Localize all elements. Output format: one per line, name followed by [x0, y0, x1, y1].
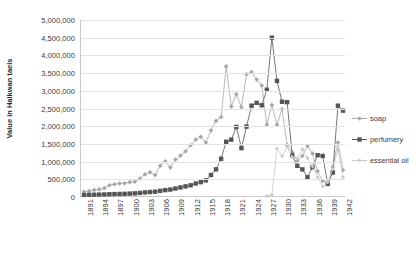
- x-axis-tick: 1894: [101, 199, 110, 216]
- y-axis-tick: 2,500,000: [41, 104, 75, 113]
- data-point: [127, 180, 132, 185]
- data-point: [173, 186, 177, 190]
- data-point: [153, 173, 158, 178]
- x-axis-tick: 1918: [223, 199, 232, 216]
- data-point: [320, 154, 324, 158]
- data-point: [199, 180, 203, 184]
- x-axis-tick: 1897: [116, 199, 125, 216]
- data-point: [229, 137, 233, 141]
- data-point: [158, 189, 162, 193]
- data-point: [92, 192, 96, 196]
- legend: soapperfumeryessential oil: [352, 108, 418, 171]
- x-axis-tick-labels: 1891189418971900190319061909191219151918…: [80, 199, 345, 257]
- data-point: [194, 181, 198, 185]
- data-point: [209, 128, 214, 133]
- y-axis-tick: 4,000,000: [41, 51, 75, 60]
- y-axis-title-text: Value in Haikwan taels: [5, 58, 14, 138]
- data-point: [153, 189, 157, 193]
- x-axis-tick: 1900: [132, 199, 141, 216]
- data-point: [128, 191, 132, 195]
- gridline: [81, 91, 345, 92]
- series-line: [267, 147, 343, 196]
- data-point: [148, 190, 152, 194]
- data-point: [148, 170, 153, 175]
- x-axis-tick: 1915: [208, 199, 217, 216]
- legend-item-perfumery[interactable]: perfumery: [352, 129, 418, 150]
- gridline: [81, 20, 345, 21]
- x-axis-tick: 1933: [299, 199, 308, 216]
- data-point: [138, 191, 142, 195]
- x-axis-tick: 1939: [330, 199, 339, 216]
- data-point: [270, 193, 274, 197]
- data-point: [265, 194, 269, 198]
- legend-marker-icon: [352, 114, 367, 123]
- data-point: [295, 164, 299, 168]
- data-point: [133, 191, 137, 195]
- data-point: [214, 167, 218, 171]
- data-point: [102, 192, 106, 196]
- gridline: [81, 73, 345, 74]
- chart-container: Value in Haikwan taels 0500,0001,000,000…: [0, 0, 420, 257]
- data-point: [188, 183, 192, 187]
- plot-area: [80, 20, 345, 197]
- x-axis-tick: 1921: [238, 199, 247, 216]
- y-axis-tick: 4,500,000: [41, 33, 75, 42]
- data-point: [122, 192, 126, 196]
- data-point: [310, 151, 315, 156]
- y-axis-tick: 1,000,000: [41, 157, 75, 166]
- data-point: [87, 189, 92, 194]
- data-point: [92, 188, 97, 193]
- data-point: [275, 79, 279, 83]
- data-point: [305, 156, 309, 160]
- gridline: [81, 109, 345, 110]
- x-axis-tick: 1927: [269, 199, 278, 216]
- data-point: [122, 181, 127, 186]
- legend-item-soap[interactable]: soap: [352, 108, 418, 129]
- legend-label: essential oil: [370, 156, 409, 165]
- data-point: [254, 101, 258, 105]
- legend-label: perfumery: [370, 135, 403, 144]
- data-point: [315, 153, 319, 157]
- data-point: [168, 187, 172, 191]
- data-point: [239, 146, 243, 150]
- y-axis-tick: 2,000,000: [41, 122, 75, 131]
- data-point: [224, 64, 229, 69]
- data-point: [249, 103, 253, 107]
- legend-label: soap: [370, 114, 386, 123]
- gridline: [81, 144, 345, 145]
- data-point: [97, 187, 102, 192]
- data-point: [209, 173, 213, 177]
- data-point: [112, 192, 116, 196]
- x-axis-tick: 1936: [315, 199, 324, 216]
- data-point: [87, 193, 91, 197]
- x-axis-tick: 1930: [284, 199, 293, 216]
- data-point: [143, 190, 147, 194]
- x-axis-tick: 1906: [162, 199, 171, 216]
- data-point: [234, 92, 239, 97]
- y-axis-tick: 3,000,000: [41, 86, 75, 95]
- data-point: [102, 186, 107, 191]
- y-axis-tick: 5,000,000: [41, 16, 75, 25]
- data-point: [285, 100, 289, 104]
- y-axis-tick-labels: 0500,0001,000,0001,500,0002,000,0002,500…: [14, 0, 78, 210]
- data-point: [336, 103, 340, 107]
- data-point: [280, 100, 284, 104]
- data-point: [117, 181, 122, 186]
- data-point: [270, 103, 275, 108]
- data-point: [107, 192, 111, 196]
- y-axis-tick: 3,500,000: [41, 69, 75, 78]
- legend-marker-icon: [352, 156, 367, 165]
- y-axis-tick: 500,000: [48, 175, 75, 184]
- data-point: [260, 103, 264, 107]
- x-axis-tick: 1924: [254, 199, 263, 216]
- data-point: [112, 182, 117, 187]
- gridline: [81, 55, 345, 56]
- x-axis-tick: 1909: [177, 199, 186, 216]
- gridline: [81, 179, 345, 180]
- data-point: [183, 184, 187, 188]
- legend-item-essential-oil[interactable]: essential oil: [352, 150, 418, 171]
- data-point: [300, 147, 304, 151]
- legend-marker-icon: [352, 135, 367, 144]
- data-point: [219, 157, 223, 161]
- x-axis-tick: 1942: [345, 199, 354, 216]
